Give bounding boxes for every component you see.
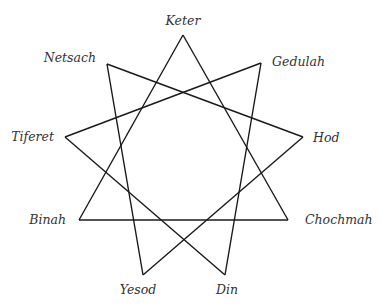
label-yesod: Yesod: [120, 282, 157, 297]
label-netsach: Netsach: [43, 50, 96, 65]
label-binah: Binah: [28, 212, 66, 227]
star-edges: [65, 35, 303, 275]
edge-gedulah-tiferet: [65, 63, 261, 137]
label-chochmah: Chochmah: [305, 212, 373, 227]
label-hod: Hod: [312, 130, 339, 145]
enneagram-diagram: Keter Gedulah Hod Chochmah Din Yesod Bin…: [0, 0, 382, 308]
edge-hod-yesod: [143, 137, 303, 275]
label-din: Din: [215, 282, 238, 297]
label-tiferet: Tiferet: [11, 129, 55, 144]
label-gedulah: Gedulah: [272, 54, 325, 69]
label-keter: Keter: [165, 13, 202, 28]
node-labels: Keter Gedulah Hod Chochmah Din Yesod Bin…: [11, 13, 372, 297]
edge-tiferet-din: [65, 137, 225, 275]
edge-yesod-netsach: [107, 64, 143, 275]
edge-din-gedulah: [225, 63, 261, 275]
